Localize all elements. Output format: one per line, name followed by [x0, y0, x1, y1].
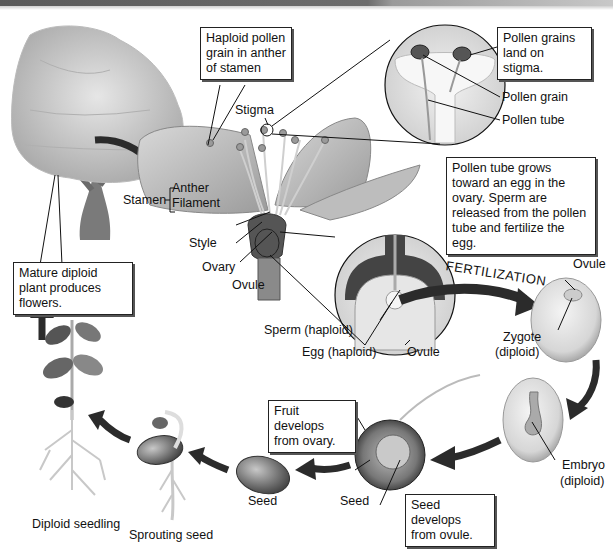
label-stigma: Stigma: [235, 103, 274, 117]
callout-mature-plant: Mature diploid plant produces flowers.: [13, 262, 133, 315]
label-style: Style: [189, 236, 217, 250]
sprouting-seed: [135, 412, 185, 520]
callout-haploid-pollen: Haploid pollen grain in anther of stamen: [200, 27, 292, 80]
label-zygote: Zygote: [503, 330, 541, 344]
label-sperm: Sperm (haploid): [264, 323, 353, 337]
embryo-ovule: [503, 378, 563, 462]
label-embryo-ploidy: (diploid): [560, 474, 604, 488]
diploid-seedling: [40, 318, 107, 495]
label-anther: Anther: [172, 181, 209, 195]
label-stamen: Stamen: [123, 193, 166, 207]
label-ovule-zygote: Ovule: [573, 257, 606, 271]
label-diploid-seedling: Diploid seedling: [32, 517, 120, 531]
label-ovule-detail: Ovule: [407, 345, 440, 359]
label-ovary: Ovary: [202, 260, 235, 274]
label-ovule-flower: Ovule: [232, 278, 265, 292]
label-pollen-tube: Pollen tube: [502, 113, 565, 127]
callout-pollen-land: Pollen grains land on stigma.: [497, 27, 592, 80]
callout-pollen-tube-grows: Pollen tube grows toward an egg in the o…: [446, 157, 596, 255]
label-seed: Seed: [248, 494, 277, 508]
label-zygote-ploidy: (diploid): [495, 345, 539, 359]
label-seed-fruit: Seed: [340, 494, 369, 508]
label-embryo: Embryo: [562, 458, 605, 472]
fruit: [355, 375, 480, 490]
label-egg: Egg (haploid): [302, 345, 376, 359]
callout-seed-develops: Seed develops from ovule.: [405, 494, 495, 547]
label-pollen-grain: Pollen grain: [502, 90, 568, 104]
zygote-ovule: [531, 278, 601, 362]
label-sprouting-seed: Sprouting seed: [129, 528, 213, 542]
callout-fruit-develops: Fruit develops from ovary.: [268, 400, 356, 453]
seed: [232, 451, 293, 500]
stigma-detail-circle: [385, 25, 505, 145]
label-filament: Filament: [172, 196, 220, 210]
